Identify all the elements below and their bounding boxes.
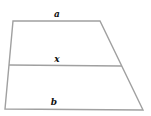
label-bottom-base-b: b <box>51 98 57 107</box>
trapezoid-diagram: a x b <box>0 0 151 116</box>
trapezoid-svg <box>0 0 151 116</box>
label-top-base-a: a <box>54 10 60 19</box>
middle-parallel-segment <box>9 65 122 66</box>
label-middle-segment-x: x <box>54 55 59 64</box>
